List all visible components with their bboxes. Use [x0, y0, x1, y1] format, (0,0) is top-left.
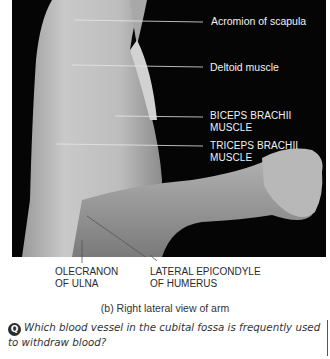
label-acromion-of-scapula: Acromion of scapula [211, 15, 306, 27]
label-olecranon-of-ulna: OLECRANON OF ULNA [55, 266, 118, 290]
label-olecranon-line2: OF ULNA [55, 278, 118, 290]
question-block: QWhich blood vessel in the cubital fossa… [8, 321, 322, 349]
arm-photograph: Acromion of scapula Deltoid muscle BICEP… [12, 0, 326, 257]
label-triceps-line2: MUSCLE [210, 152, 298, 164]
label-triceps-line1: TRICEPS BRACHII [210, 140, 298, 152]
label-deltoid-muscle: Deltoid muscle [210, 61, 279, 73]
question-badge-icon: Q [8, 323, 21, 336]
label-biceps-line2: MUSCLE [210, 122, 291, 134]
label-biceps-line1: BICEPS BRACHII [210, 110, 291, 122]
question-text: Which blood vessel in the cubital fossa … [8, 321, 320, 348]
label-olecranon-line1: OLECRANON [55, 266, 118, 278]
label-lateral-epicondyle: LATERAL EPICONDYLE OF HUMERUS [150, 266, 261, 290]
margin-rule [327, 320, 328, 356]
label-epicondyle-line1: LATERAL EPICONDYLE [150, 266, 261, 278]
label-biceps-brachii: BICEPS BRACHII MUSCLE [210, 110, 291, 134]
label-epicondyle-line2: OF HUMERUS [150, 278, 261, 290]
label-triceps-brachii: TRICEPS BRACHII MUSCLE [210, 140, 298, 164]
figure-caption: (b) Right lateral view of arm [0, 302, 330, 314]
